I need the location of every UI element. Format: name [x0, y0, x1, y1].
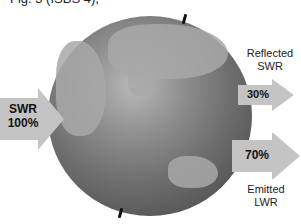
figure-caption: Fig. 3 (ISBS 4),: [10, 0, 99, 6]
reflected-label-line1: Reflected: [240, 47, 300, 60]
incoming-swr-percent: 100%: [4, 116, 42, 130]
emitted-percent: 70%: [240, 148, 274, 162]
emitted-label-line2: LWR: [236, 196, 296, 209]
reflected-label-line2: SWR: [240, 60, 300, 73]
reflected-percent: 30%: [244, 88, 272, 100]
earth-globe: [48, 16, 252, 216]
land-australia: [168, 156, 218, 188]
land-india: [128, 61, 153, 96]
emitted-label-line1: Emitted: [236, 183, 296, 196]
incoming-swr-name: SWR: [6, 102, 40, 116]
land-eurasia: [108, 24, 228, 79]
